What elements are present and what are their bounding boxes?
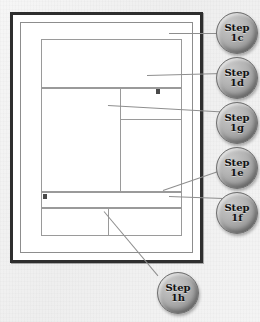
resize-handle-top-right[interactable] <box>156 89 160 94</box>
page-frame <box>10 12 203 263</box>
callout-step-1f[interactable]: Step 1f <box>216 192 258 234</box>
callout-step-1d[interactable]: Step 1d <box>216 57 258 99</box>
content-region <box>41 88 182 192</box>
resize-handle-left[interactable] <box>43 194 47 199</box>
content-column-divider <box>120 89 121 191</box>
footer-column-divider <box>108 209 109 235</box>
leader-line-step-1c <box>169 33 221 34</box>
callout-step-1c-line2: 1c <box>230 33 243 43</box>
callout-step-1h-line2: 1h <box>171 293 185 303</box>
toolbar-strip <box>41 192 182 208</box>
header-region <box>41 39 182 88</box>
callout-step-1g-line2: 1g <box>230 123 244 133</box>
callout-step-1f-line2: 1f <box>231 213 242 223</box>
callout-step-1d-line2: 1d <box>230 78 244 88</box>
callout-step-1e[interactable]: Step 1e <box>216 147 258 189</box>
callout-step-1e-line2: 1e <box>230 168 243 178</box>
callout-step-1g[interactable]: Step 1g <box>216 102 258 144</box>
callout-step-1h[interactable]: Step 1h <box>157 272 199 314</box>
callout-step-1c[interactable]: Step 1c <box>216 12 258 54</box>
content-column-subrule <box>121 119 181 120</box>
